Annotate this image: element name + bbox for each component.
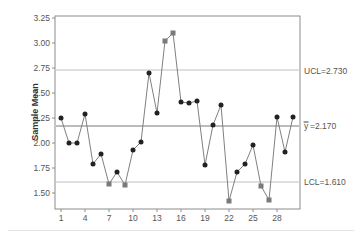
x-tick-label: 19 <box>200 213 210 223</box>
data-point-marker <box>219 103 224 108</box>
data-point-marker <box>275 115 280 120</box>
x-tick-label: 1 <box>59 213 64 223</box>
plot-axes: 1.501.752.002.252.502.753.003.2514710131… <box>33 13 300 223</box>
lcl-label: LCL=1.610 <box>304 177 346 187</box>
data-point-marker <box>83 112 88 117</box>
ucl-label: UCL=2.730 <box>304 66 348 76</box>
x-tick-label: 10 <box>128 213 138 223</box>
x-tick-label: 4 <box>83 213 88 223</box>
data-point-marker <box>211 123 216 128</box>
out-of-control-marker <box>227 199 232 204</box>
out-of-control-marker <box>267 198 272 203</box>
data-point-marker <box>67 141 72 146</box>
out-of-control-marker <box>171 31 176 36</box>
data-point-marker <box>99 152 104 157</box>
x-tick-label: 28 <box>272 213 282 223</box>
data-point-marker <box>195 99 200 104</box>
data-point-marker <box>59 116 64 121</box>
data-point-marker <box>155 111 160 116</box>
out-of-control-marker <box>107 182 112 187</box>
x-tick-label: 13 <box>152 213 162 223</box>
y-axis-label: Sample Mean <box>30 83 40 141</box>
out-of-control-marker <box>163 39 168 44</box>
y-tick-label: 3.25 <box>33 13 50 23</box>
x-tick-label: 7 <box>107 213 112 223</box>
y-tick-label: 1.75 <box>33 163 50 173</box>
data-point-marker <box>251 143 256 148</box>
y-tick-label: 1.50 <box>33 188 50 198</box>
x-tick-label: 22 <box>224 213 234 223</box>
limit-labels: UCL=2.730 y̿ =2.170 LCL=1.610 <box>303 66 347 187</box>
center-line-value: =2.170 <box>310 121 337 131</box>
center-line-symbol: y̿ <box>303 121 309 131</box>
data-point-marker <box>131 148 136 153</box>
series-line <box>61 33 293 201</box>
data-point-marker <box>243 162 248 167</box>
data-point-marker <box>139 140 144 145</box>
out-of-control-marker <box>259 184 264 189</box>
data-point-marker <box>75 141 80 146</box>
data-point-marker <box>179 100 184 105</box>
data-series <box>59 31 296 204</box>
y-tick-label: 3.00 <box>33 38 50 48</box>
out-of-control-marker <box>123 183 128 188</box>
data-point-marker <box>91 162 96 167</box>
data-point-marker <box>147 71 152 76</box>
control-chart: 1.501.752.002.252.502.753.003.2514710131… <box>0 0 362 238</box>
data-point-marker <box>291 115 296 120</box>
data-point-marker <box>235 170 240 175</box>
data-point-marker <box>203 163 208 168</box>
y-tick-label: 2.75 <box>33 63 50 73</box>
data-point-marker <box>115 170 120 175</box>
data-point-marker <box>187 101 192 106</box>
plot-frame <box>55 16 300 209</box>
x-tick-label: 16 <box>176 213 186 223</box>
bottom-divider <box>8 230 354 231</box>
x-tick-label: 25 <box>248 213 258 223</box>
data-point-marker <box>283 150 288 155</box>
